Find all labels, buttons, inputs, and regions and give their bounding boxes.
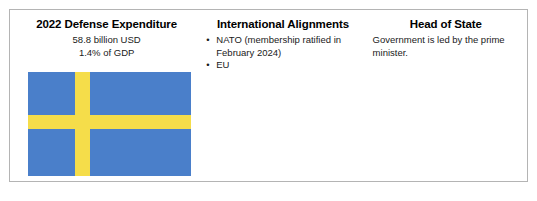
expenditure-gdp-percent: 1.4% of GDP bbox=[20, 47, 193, 60]
info-card: 2022 Defense Expenditure 58.8 billion US… bbox=[9, 9, 528, 182]
sweden-flag-icon bbox=[28, 72, 191, 176]
alignments-list: • NATO (membership ratified in February … bbox=[205, 34, 360, 72]
expenditure-amount: 58.8 billion USD bbox=[20, 34, 193, 47]
column-title-international-alignments: International Alignments bbox=[205, 17, 360, 31]
column-title-defense-expenditure: 2022 Defense Expenditure bbox=[20, 17, 193, 31]
list-item: • NATO (membership ratified in February … bbox=[205, 34, 360, 59]
flag-cross-vertical bbox=[75, 72, 90, 176]
flag-cross-horizontal bbox=[28, 115, 191, 129]
column-title-head-of-state: Head of State bbox=[373, 17, 519, 31]
list-item: • EU bbox=[205, 59, 360, 72]
bullet-icon: • bbox=[206, 34, 209, 47]
list-item-label: NATO (membership ratified in February 20… bbox=[216, 34, 341, 58]
bullet-icon: • bbox=[206, 59, 209, 72]
column-international-alignments: International Alignments • NATO (members… bbox=[199, 10, 366, 181]
column-head-of-state: Head of State Government is led by the p… bbox=[367, 10, 527, 181]
head-of-state-description: Government is led by the prime minister. bbox=[373, 34, 519, 59]
list-item-label: EU bbox=[216, 59, 229, 70]
